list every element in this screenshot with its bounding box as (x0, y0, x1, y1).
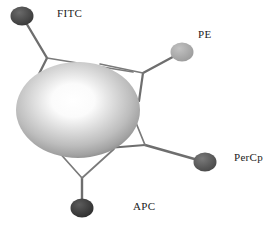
label-apc: APC (133, 200, 155, 212)
central-sphere (16, 62, 140, 158)
diagram-canvas (0, 0, 278, 226)
apc-dot (71, 199, 94, 218)
label-pe: PE (198, 28, 211, 40)
label-fitc: FITC (57, 7, 82, 19)
pe-dot (171, 43, 194, 62)
label-percp: PerCp (234, 151, 263, 163)
fitc-dot (11, 7, 34, 26)
percp-dot (194, 153, 217, 172)
pe-arm-down (139, 73, 143, 101)
fluorochrome-conjugate-figure: FITC PE PerCp APC (0, 0, 278, 226)
